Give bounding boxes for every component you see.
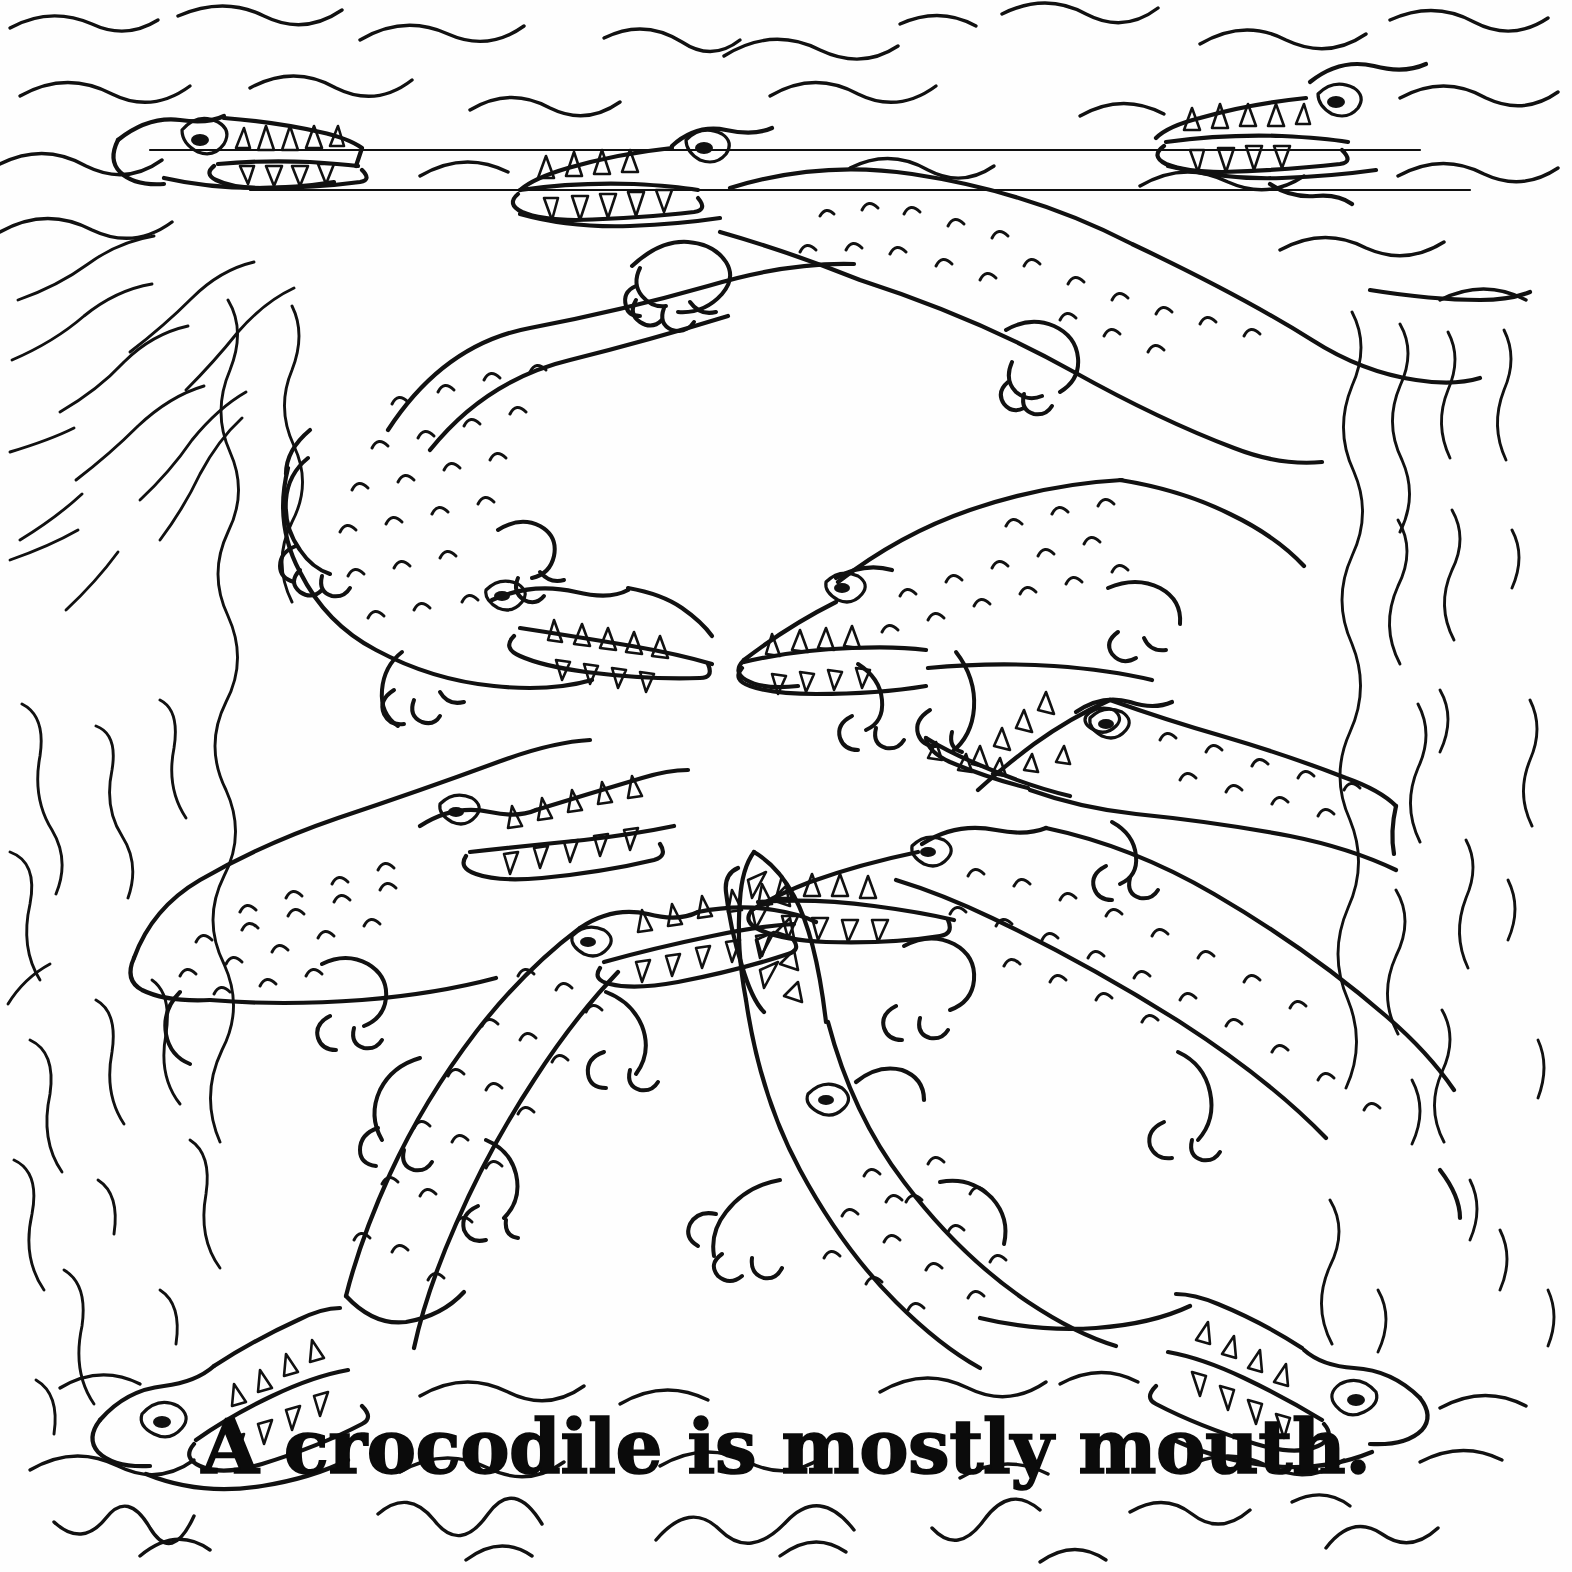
crocodile-head-bottom-left [92,1308,368,1489]
water-left-current [8,236,303,1434]
crocodile-head-top-left [113,116,366,188]
crocodile-right-middle [926,692,1396,900]
crocodile-illustration [0,0,1572,1572]
water-top-waves [0,3,1558,300]
water-right-current [1321,312,1554,1352]
crocodile-lower-left-diving [346,884,816,1348]
crocodile-right-upper [738,480,1304,752]
crocodile-head-top-center [513,128,772,226]
crocodile-center-right-big [748,828,1460,1218]
crocodile-upper-large [625,169,1530,462]
coloring-book-page: A crocodile is mostly mouth. [0,0,1572,1572]
